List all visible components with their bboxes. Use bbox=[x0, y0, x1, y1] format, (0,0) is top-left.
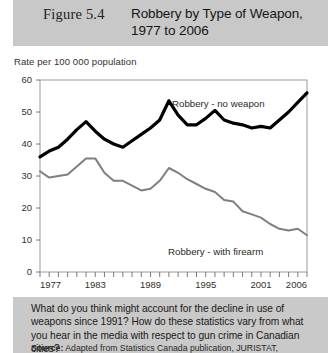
x-tick-label: 1995 bbox=[195, 279, 216, 290]
y-tick-label: 30 bbox=[21, 170, 32, 181]
figure-title-line-2: 1977 to 2006 bbox=[131, 22, 328, 39]
series-line-with-firearm bbox=[40, 158, 307, 235]
y-tick-label: 60 bbox=[21, 74, 32, 85]
figure-title: Robbery by Type of Weapon, 1977 to 2006 bbox=[131, 5, 328, 39]
y-tick-label: 0 bbox=[27, 266, 32, 277]
x-tick-label: 2006 bbox=[286, 279, 307, 290]
source-text: Adapted from Statistics Canada publicati… bbox=[63, 343, 278, 353]
x-tick-label: 1977 bbox=[40, 279, 61, 290]
x-tick-label: 1983 bbox=[85, 279, 106, 290]
figure-page: Figure 5.4 Robbery by Type of Weapon, 19… bbox=[0, 0, 328, 353]
series-label-with-firearm: Robbery - with firearm bbox=[168, 246, 263, 257]
line-chart: 0102030405060197719831989199520012006 bbox=[0, 46, 328, 295]
x-tick-label: 2001 bbox=[250, 279, 271, 290]
figure-number: Figure 5.4 bbox=[43, 6, 105, 23]
figure-title-line-1: Robbery by Type of Weapon, bbox=[131, 5, 328, 22]
y-tick-label: 20 bbox=[21, 202, 32, 213]
series-label-no-weapon: Robbery - no weapon bbox=[172, 98, 265, 109]
discussion-question-band: What do you think might account for the … bbox=[13, 297, 328, 353]
x-tick-label: 1989 bbox=[140, 279, 161, 290]
source-label: Source: bbox=[31, 343, 63, 353]
source-line: Source: Adapted from Statistics Canada p… bbox=[31, 343, 323, 353]
figure-header-band: Figure 5.4 Robbery by Type of Weapon, 19… bbox=[13, 0, 328, 46]
y-tick-label: 10 bbox=[21, 234, 32, 245]
chart-area: Rate per 100 000 population 010203040506… bbox=[0, 46, 328, 295]
y-tick-label: 50 bbox=[21, 106, 32, 117]
y-tick-label: 40 bbox=[21, 138, 32, 149]
